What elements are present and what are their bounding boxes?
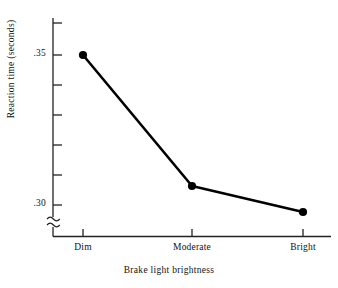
y-tick-label-035: .35 [24,48,46,58]
x-axis-title: Brake light brightness [0,265,338,275]
y-axis-title: Reaction time (seconds) [6,4,16,134]
y-tick-label-030: .30 [24,198,46,208]
x-tick-label-dim: Dim [74,242,92,252]
data-point-dim [79,51,87,59]
chart-plot-area [0,0,338,288]
x-tick-label-bright: Bright [290,242,315,252]
y-axis-title-wrapper: Reaction time (seconds) [6,4,20,134]
x-tick-label-moderate: Moderate [173,242,211,252]
data-point-moderate [188,182,196,190]
data-point-bright [299,208,307,216]
figure-container: .35 .30 Dim Moderate Bright Brake light … [0,0,338,288]
chart-background [0,0,338,288]
